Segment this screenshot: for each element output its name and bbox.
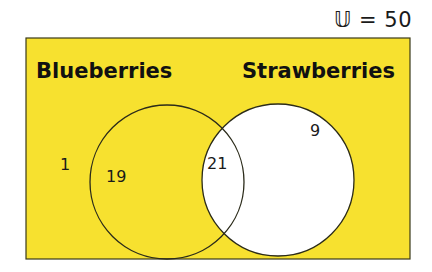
region-neither: 1 [60, 155, 70, 174]
venn-diagram: Blueberries Strawberries 1 19 21 9 [0, 0, 432, 272]
strawberries-label: Strawberries [242, 59, 395, 83]
region-both: 21 [207, 154, 227, 173]
region-blueberries-only: 19 [106, 167, 126, 186]
blueberries-label: Blueberries [36, 59, 172, 83]
region-strawberries-only: 9 [310, 121, 320, 140]
